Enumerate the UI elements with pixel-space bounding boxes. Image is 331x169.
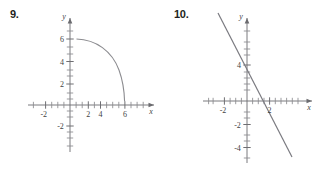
x-tick-label-neg2-9: -2 (40, 110, 47, 119)
y-axis-arrowhead-9 (68, 18, 73, 24)
y-tick-label-neg2-9: -2 (57, 122, 64, 131)
figure-9: 9. (0, 0, 166, 169)
x-axis-label-9: x (148, 107, 153, 116)
graph-10-plot: -2 2 4 -2 -4 x y (166, 0, 331, 169)
worksheet-page: 9. (0, 0, 331, 169)
x-tick-label-2-9: 2 (86, 110, 90, 119)
x-tick-label-neg2-10: -2 (220, 106, 227, 115)
y-tick-label-4-9: 4 (60, 58, 64, 67)
line-10-decreasing (218, 13, 292, 157)
graph-9-plot: -2 2 4 6 2 4 6 -2 x y (0, 0, 166, 169)
x-tick-label-2-10: 2 (268, 106, 272, 115)
y-tick-label-neg2-10: -2 (234, 121, 241, 130)
y-axis-label-10: y (238, 12, 243, 21)
x-axis-label-10: x (306, 103, 311, 112)
y-axis-label-9: y (61, 12, 66, 21)
y-axis-arrowhead-10 (245, 18, 250, 24)
figure-10: 10. (166, 0, 331, 169)
y-tick-label-neg4-10: -4 (234, 144, 241, 153)
x-tick-label-4-9: 4 (99, 110, 103, 119)
y-tick-label-6-9: 6 (60, 35, 64, 44)
x-tick-label-6-9: 6 (123, 110, 127, 119)
curve-9-quarter-arc (77, 39, 125, 102)
y-tick-label-2-9: 2 (60, 80, 64, 89)
y-tick-label-4-10: 4 (237, 61, 241, 70)
